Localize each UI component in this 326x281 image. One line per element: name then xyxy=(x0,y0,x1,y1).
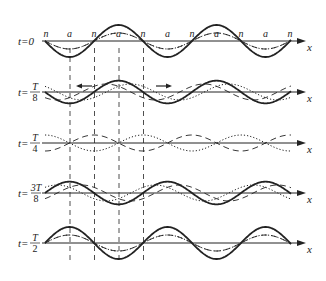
wave-row-t0: x xyxy=(42,25,312,57)
svg-text:8: 8 xyxy=(33,92,38,103)
svg-text:t=: t= xyxy=(18,237,28,249)
wave-row-t4: x xyxy=(42,227,312,259)
svg-text:2: 2 xyxy=(33,243,38,254)
node-label: n xyxy=(44,28,49,39)
node-label: n xyxy=(190,28,195,39)
axis-label: x xyxy=(306,92,312,104)
axis-arrow-icon xyxy=(297,89,306,95)
time-label-t3: t=3T8 xyxy=(18,182,43,204)
antinode-label: a xyxy=(165,28,170,39)
svg-text:3T: 3T xyxy=(30,182,43,193)
svg-text:T: T xyxy=(32,132,39,143)
standing-wave-diagram: xxxxx t=0t=T8t=T4t=3T8t=T2nananananan xyxy=(0,0,326,281)
antinode-label: a xyxy=(116,28,121,39)
axis-label: x xyxy=(306,143,312,155)
node-label: n xyxy=(92,28,97,39)
axis-arrow-icon xyxy=(297,240,306,246)
svg-text:8: 8 xyxy=(34,193,39,204)
antinode-label: a xyxy=(263,28,268,39)
antinode-label: a xyxy=(67,28,72,39)
time-label-t0: t=0 xyxy=(18,35,34,47)
antinode-label: a xyxy=(214,28,219,39)
node-label: n xyxy=(141,28,146,39)
svg-text:T: T xyxy=(32,232,39,243)
axis-arrow-icon xyxy=(297,38,306,44)
dashed-guide-lines xyxy=(70,48,144,262)
arrow-right-icon xyxy=(166,84,172,89)
node-label: n xyxy=(288,28,293,39)
wave-row-t2: x xyxy=(42,135,312,155)
arrow-left-icon xyxy=(76,84,82,89)
svg-text:t=: t= xyxy=(18,137,28,149)
node-antinode-labels: nananananan xyxy=(44,28,293,39)
svg-text:t=: t= xyxy=(18,86,28,98)
time-label-t2: t=T4 xyxy=(18,132,40,154)
axis-arrow-icon xyxy=(297,190,306,196)
svg-text:4: 4 xyxy=(33,143,38,154)
wave-row-t1: x xyxy=(42,81,312,104)
row-labels: t=0t=T8t=T4t=3T8t=T2nananananan xyxy=(18,28,293,254)
axis-label: x xyxy=(306,243,312,255)
axis-arrow-icon xyxy=(297,140,306,146)
axis-label: x xyxy=(306,193,312,205)
svg-text:t=0: t=0 xyxy=(18,35,34,47)
wave-row-t3: x xyxy=(42,182,312,205)
svg-text:T: T xyxy=(32,81,39,92)
wave-rows: xxxxx xyxy=(42,25,312,259)
time-label-t4: t=T2 xyxy=(18,232,40,254)
node-label: n xyxy=(239,28,244,39)
axis-label: x xyxy=(306,41,312,53)
time-label-t1: t=T8 xyxy=(18,81,40,103)
svg-text:t=: t= xyxy=(18,187,28,199)
